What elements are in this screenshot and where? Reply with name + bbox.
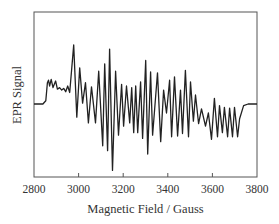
- x-tick-label: 3000: [67, 183, 90, 195]
- x-axis-label: Magnetic Field / Gauss: [87, 202, 203, 216]
- x-tick-label: 3400: [156, 183, 179, 195]
- epr-signal-line: [34, 45, 257, 170]
- x-tick-label: 2800: [23, 183, 46, 195]
- x-tick-label: 3200: [112, 183, 135, 195]
- x-axis-tick-labels: 280030003200340036003800: [23, 183, 269, 195]
- x-tick-label: 3600: [201, 183, 224, 195]
- x-axis-ticks: [79, 173, 213, 177]
- plot-frame: [34, 12, 257, 177]
- epr-spectrum-chart: 280030003200340036003800 Magnetic Field …: [0, 0, 279, 224]
- y-axis-label: EPR Signal: [10, 65, 24, 124]
- x-tick-label: 3800: [246, 183, 269, 195]
